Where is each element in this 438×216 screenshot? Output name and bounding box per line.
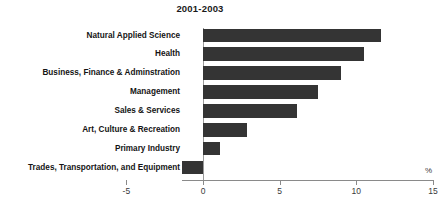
bar-row: Business, Finance & Adminstration xyxy=(0,66,436,85)
axis-unit-label: % xyxy=(425,166,432,175)
bar-row: Natural Applied Science xyxy=(0,29,436,48)
x-axis-line xyxy=(182,180,433,181)
x-axis-tick-label: 15 xyxy=(428,186,437,196)
bar-row: Sales & Services xyxy=(0,104,436,123)
category-label: Business, Finance & Adminstration xyxy=(0,66,180,80)
bar-row: Management xyxy=(0,85,436,104)
category-label: Sales & Services xyxy=(0,104,180,118)
x-axis-tick-label: 5 xyxy=(277,186,282,196)
bar xyxy=(203,66,341,80)
bar xyxy=(203,142,220,156)
category-label: Management xyxy=(0,85,180,99)
x-axis-tick-label: 10 xyxy=(352,186,361,196)
x-axis-tick xyxy=(280,180,281,185)
x-axis-tick xyxy=(126,180,127,185)
bar xyxy=(203,123,247,137)
x-axis-tick xyxy=(433,180,434,185)
x-axis-tick-label: -5 xyxy=(123,186,131,196)
bar xyxy=(203,85,318,99)
x-axis-tick xyxy=(356,180,357,185)
category-label: Art, Culture & Recreation xyxy=(0,123,180,137)
category-label: Health xyxy=(0,47,180,61)
bar xyxy=(203,104,297,118)
category-label: Trades, Transportation, and Equipment xyxy=(0,161,180,175)
bar xyxy=(203,47,364,61)
bar xyxy=(203,29,381,43)
bar-row: Primary Industry xyxy=(0,142,436,161)
category-label: Primary Industry xyxy=(0,142,180,156)
category-label: Natural Applied Science xyxy=(0,29,180,43)
bar xyxy=(182,161,203,175)
bar-row: Art, Culture & Recreation xyxy=(0,123,436,142)
bar-row: Trades, Transportation, and Equipment xyxy=(0,161,436,180)
x-axis-tick xyxy=(203,180,204,185)
x-axis-tick-label: 0 xyxy=(201,186,206,196)
bar-row: Health xyxy=(0,47,436,66)
